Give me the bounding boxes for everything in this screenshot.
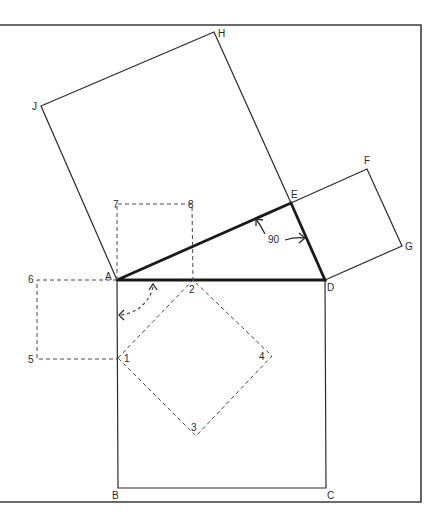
label-1: 1 xyxy=(124,353,130,364)
dashed-square-a782 xyxy=(117,204,193,280)
label-6: 6 xyxy=(28,274,34,285)
angle-arrow-right xyxy=(285,238,304,240)
square-aehj xyxy=(41,32,291,280)
label-4: 4 xyxy=(259,351,265,362)
label-3: 3 xyxy=(191,422,197,433)
label-8: 8 xyxy=(188,199,194,210)
square-abcd xyxy=(117,280,326,488)
label-2: 2 xyxy=(189,284,195,295)
label-g: G xyxy=(405,241,413,252)
triangle-ade xyxy=(117,203,325,280)
pythagoras-diagram: 90 A B C D E F G H J 1 2 3 4 5 6 7 8 xyxy=(0,0,438,517)
label-b: B xyxy=(112,490,119,501)
label-f: F xyxy=(364,155,370,166)
right-angle-label: 90 xyxy=(268,234,280,245)
angle-arrow-upleft xyxy=(256,219,265,234)
label-e: E xyxy=(291,189,298,200)
square-efgd xyxy=(291,169,402,280)
diagram-canvas: 90 A B C D E F G H J 1 2 3 4 5 6 7 8 xyxy=(0,0,438,517)
dashed-square-a651 xyxy=(37,280,118,359)
label-c: C xyxy=(327,490,334,501)
rotation-arrow-path xyxy=(121,287,153,315)
label-h: H xyxy=(218,28,225,39)
label-7: 7 xyxy=(113,199,119,210)
label-j: J xyxy=(32,101,37,112)
label-5: 5 xyxy=(28,354,34,365)
label-a: A xyxy=(105,271,112,282)
label-d: D xyxy=(327,282,334,293)
dashed-diamond-1243 xyxy=(118,280,272,436)
